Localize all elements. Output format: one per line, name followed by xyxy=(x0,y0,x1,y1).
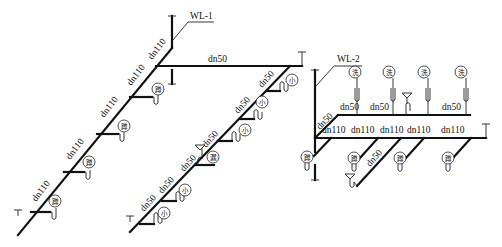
svg-text:蹲: 蹲 xyxy=(304,153,311,161)
label-dn50: dn50 xyxy=(200,128,220,149)
svg-text:洗: 洗 xyxy=(458,68,465,77)
label-dn50: dn50 xyxy=(138,192,158,213)
wl2-label: WL-2 xyxy=(337,54,360,64)
label-dn110: dn110 xyxy=(441,125,465,135)
wl1-label: WL-1 xyxy=(190,11,213,21)
label-dn50: dn50 xyxy=(370,102,389,112)
label-dn110: dn110 xyxy=(380,125,404,135)
label-dn110: dn110 xyxy=(30,178,52,203)
svg-text:漏: 漏 xyxy=(210,153,217,162)
label-dn110: dn110 xyxy=(322,125,346,135)
washbasin-fixture: 洗 xyxy=(418,66,430,115)
svg-text:蹲: 蹲 xyxy=(86,158,93,166)
svg-text:洗: 洗 xyxy=(421,68,428,77)
label-dn50: dn50 xyxy=(156,174,176,195)
label-dn50: dn50 xyxy=(232,94,252,115)
floor-drain-fixture xyxy=(402,93,412,115)
label-dn50: dn50 xyxy=(256,68,276,89)
label-dn50-horizontal: dn50 xyxy=(208,54,227,64)
squat-toilet-fixture: 蹲 xyxy=(97,120,130,142)
system-wl2: WL-2 dn50 dn50 dn50 dn50 洗 洗 xyxy=(301,54,490,188)
svg-text:蹲: 蹲 xyxy=(155,85,162,93)
svg-text:蹲: 蹲 xyxy=(397,154,404,162)
label-dn50: dn50 xyxy=(442,102,461,112)
urinal-fixture: 小 xyxy=(218,124,251,142)
label-dn110: dn110 xyxy=(351,125,375,135)
squat-toilet-fixture: 蹲 xyxy=(442,138,471,172)
label-dn110: dn110 xyxy=(407,125,431,135)
svg-text:蹲: 蹲 xyxy=(52,197,59,205)
svg-text:小: 小 xyxy=(259,98,266,107)
svg-text:小: 小 xyxy=(289,76,296,85)
svg-text:洗: 洗 xyxy=(386,68,393,77)
squat-toilet-fixture: 蹲 xyxy=(394,138,424,172)
svg-text:蹲: 蹲 xyxy=(445,154,452,162)
svg-text:洗: 洗 xyxy=(352,68,359,77)
label-dn50: dn50 xyxy=(340,102,359,112)
svg-text:蹲: 蹲 xyxy=(121,122,128,130)
svg-text:蹲: 蹲 xyxy=(351,154,358,162)
system-wl1: WL-1 dn50 dn110 dn110 dn110 dn110 dn110 … xyxy=(14,11,306,235)
svg-text:小: 小 xyxy=(242,126,249,135)
wl1-leader xyxy=(173,22,214,40)
svg-text:小: 小 xyxy=(161,209,168,218)
svg-text:小: 小 xyxy=(182,186,189,195)
drainage-isometric-diagram: WL-1 dn50 dn110 dn110 dn110 dn110 dn110 … xyxy=(0,0,502,247)
